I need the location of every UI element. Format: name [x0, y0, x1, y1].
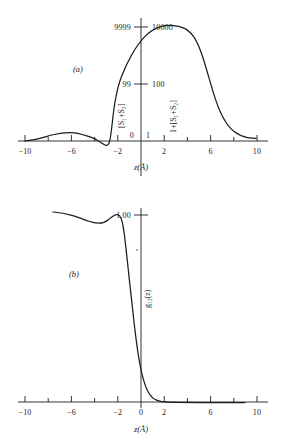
y-tick-label-right: 1	[146, 131, 150, 140]
data-curve-a	[25, 25, 256, 145]
x-tick-label: −6	[67, 147, 76, 156]
panel-tag-b: (b)	[69, 269, 79, 279]
y-axis-label-b: g₁₂(z)	[143, 289, 152, 308]
figure-container: −10 −6 −2 2 6 10 9999 99 0 10000 100 1 […	[0, 0, 281, 438]
panel-b: −10 −6 −2 0 2 6 10 1.00 g₁₂(z) z(Å) (b)	[0, 190, 281, 438]
y-tick-label-left: 9999	[114, 23, 131, 32]
panel-a-plot: −10 −6 −2 2 6 10 9999 99 0 10000 100 1 […	[0, 0, 281, 190]
x-tick-label: 0	[139, 408, 143, 417]
x-tick-label: −10	[18, 408, 31, 417]
x-tick-label: −2	[113, 408, 122, 417]
x-tick-label: 6	[208, 408, 212, 417]
x-tick-label: 2	[162, 408, 166, 417]
x-tick-label: 2	[162, 147, 166, 156]
x-axis-label-a: z(Å)	[133, 162, 148, 172]
x-axis-label-b: z(Å)	[133, 424, 148, 434]
x-tick-label: −10	[18, 147, 31, 156]
panel-b-plot: −10 −6 −2 0 2 6 10 1.00 g₁₂(z) z(Å) (b)	[0, 190, 281, 438]
y-tick-label-left: 99	[123, 80, 131, 89]
x-tick-label: 10	[253, 408, 261, 417]
y-tick-label-left: 0	[130, 131, 134, 140]
panel-a: −10 −6 −2 2 6 10 9999 99 0 10000 100 1 […	[0, 0, 281, 190]
y-axis-mark	[136, 249, 137, 250]
x-tick-label: 10	[253, 147, 261, 156]
y-tick-label-right: 10000	[152, 23, 173, 32]
panel-tag-a: (a)	[73, 64, 83, 74]
x-tick-label: 6	[208, 147, 212, 156]
y-tick-label-right: 100	[152, 80, 165, 89]
x-tick-label: −6	[67, 408, 76, 417]
y-axis-label-right: 1+[S₁+S₂]	[169, 100, 178, 133]
y-axis-label-left: [S₁+S₂]	[117, 103, 126, 128]
x-tick-label: −2	[113, 147, 122, 156]
